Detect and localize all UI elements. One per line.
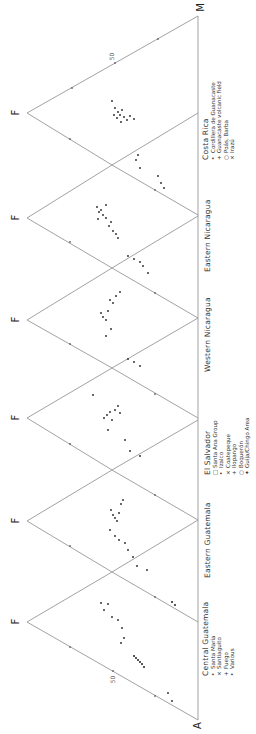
legend: •Cordillera de Guanacaste +Guanacaste vo…	[210, 81, 236, 160]
panel-edge-1	[112, 113, 198, 165]
vertex-label-f-1: F	[10, 110, 21, 116]
vertex-label-f-2: F	[10, 215, 21, 221]
vertex-label-a: A	[192, 722, 203, 729]
panel-edge-3	[112, 318, 198, 368]
afm-diagram-figure: M A F F F F F F 50 50 Costa Rica •Cordil…	[0, 0, 256, 734]
panel-title: Eastern Nicaragua	[203, 200, 212, 273]
vertex-label-m: M	[195, 3, 206, 12]
tick-label-50-top: 50	[108, 53, 115, 61]
panel-western-nicaragua: Western Nicaragua	[203, 297, 212, 372]
panel-el-salvador: El Salvador □Santa Ana Group •Izalco ×Co…	[203, 418, 250, 475]
tick-label-50-bottom: 50	[109, 676, 116, 684]
vertex-label-f-6: F	[10, 619, 21, 625]
legend: □Santa Ana Group •Izalco ×Coatepeque +Il…	[212, 418, 250, 475]
panel-eastern-guatemala: Eastern Guatemala	[203, 502, 212, 578]
tick-marks	[69, 38, 159, 697]
data-points	[92, 100, 176, 702]
panel-costa-rica: Costa Rica •Cordillera de Guanacaste +Gu…	[201, 81, 236, 160]
panel-central-guatemala: Central Guatemala •Santa María ×Santiagu…	[201, 602, 236, 676]
vertex-label-f-5: F	[10, 518, 21, 524]
panel-divider-3	[112, 368, 198, 418]
panel-title: Eastern Guatemala	[203, 502, 212, 578]
panel-edge-5	[112, 520, 198, 572]
panel-edge-4	[112, 420, 198, 470]
panel-eastern-nicaragua: Eastern Nicaragua	[203, 200, 212, 273]
panel-title: Costa Rica	[201, 81, 210, 160]
triangle-outlines	[27, 16, 198, 720]
panel-title: Western Nicaragua	[203, 297, 212, 372]
panel-title: Central Guatemala	[201, 602, 210, 676]
vertex-label-f-3: F	[10, 317, 21, 323]
vertex-label-f-4: F	[10, 415, 21, 421]
legend: •Santa María ×Santiaguito +Fuego •Variou…	[210, 602, 236, 676]
panel-edge-2	[112, 216, 198, 268]
panel-title: El Salvador	[203, 418, 212, 475]
